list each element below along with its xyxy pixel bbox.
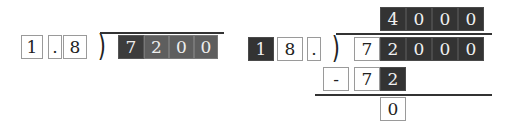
division-bar: [336, 33, 492, 35]
subtraction-line: [315, 94, 492, 96]
quotient-digit: 4: [380, 7, 406, 31]
subtraction-digit: 2: [380, 67, 406, 91]
quotient-digit: 0: [432, 7, 458, 31]
left-dividend-digit: 7: [118, 35, 144, 59]
right-dividend-digit: 7: [354, 37, 380, 61]
right-divisor-decimal-point: .: [307, 37, 321, 61]
minus-sign: -: [323, 67, 349, 91]
left-dividend-digit: 0: [194, 35, 218, 59]
right-dividend-digit: 0: [458, 37, 484, 61]
left-divisor-digit: 8: [63, 35, 87, 59]
right-divisor-digit: 8: [277, 37, 303, 61]
right-dividend-digit: 0: [406, 37, 432, 61]
quotient-digit: 0: [458, 7, 484, 31]
left-divisor-digit: 1: [21, 35, 43, 59]
right-dividend-digit: 2: [380, 37, 406, 61]
quotient-digit: 0: [406, 7, 432, 31]
right-divisor-digit: 1: [248, 37, 274, 61]
left-dividend-digit: 0: [169, 35, 194, 59]
division-bracket: ): [98, 31, 106, 61]
subtraction-digit: 7: [354, 67, 380, 91]
left-divisor-decimal-point: .: [48, 35, 62, 59]
right-dividend-digit: 0: [432, 37, 458, 61]
left-dividend-digit: 2: [144, 35, 169, 59]
division-bar: [100, 32, 224, 34]
remainder-digit: 0: [380, 97, 406, 121]
division-bracket: ): [332, 33, 340, 63]
